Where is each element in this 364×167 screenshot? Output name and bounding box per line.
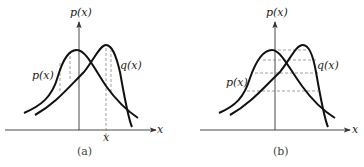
panel-b: p(x) x p(x) q(x) (b)	[200, 6, 359, 158]
x-tick-label: x	[103, 131, 110, 144]
q-curve-label: q(x)	[120, 59, 142, 72]
figure: p(x) x p(x) q(x) x (a) p(x) x p(x) q(x) …	[0, 0, 364, 167]
q-curve-label: q(x)	[317, 59, 339, 72]
caption-b: (b)	[273, 145, 289, 158]
p-curve-label: p(x)	[226, 76, 248, 89]
caption-a: (a)	[77, 145, 92, 158]
y-axis-label: p(x)	[70, 6, 92, 19]
p-curve-label: p(x)	[32, 69, 54, 82]
y-axis-label: p(x)	[266, 6, 288, 19]
q-curve	[35, 45, 132, 127]
panel-a: p(x) x p(x) q(x) x (a)	[5, 6, 164, 158]
x-axis-label: x	[352, 123, 359, 136]
x-axis-label: x	[157, 123, 164, 136]
